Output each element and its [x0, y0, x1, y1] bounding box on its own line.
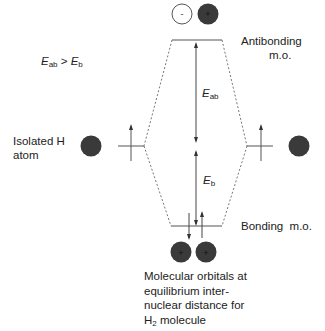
- right-h-atom: [289, 136, 310, 157]
- minus-sign: -: [177, 9, 187, 19]
- plus-sign: +: [201, 248, 211, 258]
- bonding-label: Bonding m.o.: [241, 219, 312, 233]
- energy-inequality: Eab > Eb: [41, 54, 83, 72]
- plus-sign: +: [203, 9, 213, 19]
- antibonding-label: Antibonding m.o.: [241, 34, 302, 62]
- dashed-line-right-lower: [222, 146, 247, 226]
- caption: Molecular orbitals at equilibrium inter-…: [144, 269, 247, 331]
- eab-label: Eab: [202, 86, 219, 104]
- eb-label: Eb: [203, 173, 215, 191]
- isolated-atom-label: Isolated H atom: [13, 134, 65, 162]
- dashed-line-left-upper: [144, 40, 172, 146]
- left-h-atom: [81, 136, 102, 157]
- plus-sign: +: [176, 248, 186, 258]
- dashed-line-left-lower: [144, 146, 171, 226]
